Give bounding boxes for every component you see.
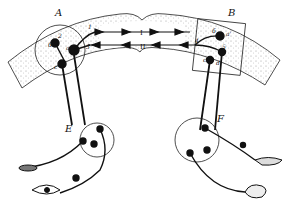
sublabel-a-a: a (66, 45, 70, 51)
sublabel-b-c1: c' (203, 57, 208, 63)
sublabel-b-b: б (212, 28, 216, 34)
intestine (245, 185, 266, 198)
eye-icon (32, 185, 60, 194)
sublabel-b-d: d (216, 60, 220, 66)
sublabel-a-2: 2 (58, 33, 62, 39)
label-b: B (228, 8, 235, 18)
label-pathway-ii: II (140, 44, 146, 51)
gland (255, 158, 282, 166)
sublabel-b-5: 5 (222, 44, 226, 50)
label-f: F (217, 114, 224, 124)
muscle (19, 165, 37, 171)
label-pathway-i: I (140, 30, 143, 37)
label-e: E (65, 124, 72, 134)
region-f-circle (175, 118, 219, 162)
sublabel-b-a1: a' (226, 31, 231, 37)
label-a: A (55, 8, 62, 18)
neural-diagram: A B E F I II 1 2 3 a б c б a' 4 5 c' d (0, 0, 285, 202)
sublabel-b-4: 4 (195, 38, 199, 44)
sublabel-a-3: 3 (86, 44, 90, 50)
sublabel-a-c: c (54, 64, 57, 70)
sublabel-a-1: 1 (88, 24, 92, 30)
sublabel-a-b: б (48, 42, 52, 48)
